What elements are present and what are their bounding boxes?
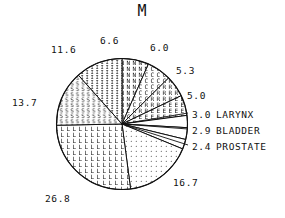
legend-value-bladder: 2.9 <box>192 125 216 136</box>
pie-slice <box>57 124 131 189</box>
legend-row-prostate: 2.4PROSTATE <box>192 141 267 152</box>
pie-chart-figure: M N C R E L <box>0 0 285 218</box>
legend-name-larynx: LARYNX <box>216 109 254 120</box>
slice-value-label-16-7: 16.7 <box>173 178 198 188</box>
legend-value-prostate: 2.4 <box>192 141 216 152</box>
slice-value-label-6-6: 6.6 <box>100 36 119 46</box>
legend-name-prostate: PROSTATE <box>216 141 267 152</box>
slice-value-label-6-0: 6.0 <box>150 43 169 53</box>
slice-value-label-13-7: 13.7 <box>12 98 37 108</box>
legend-row-larynx: 3.0LARYNX <box>192 109 254 120</box>
slice-value-label-5-0: 5.0 <box>187 91 206 101</box>
legend-name-bladder: BLADDER <box>216 125 260 136</box>
legend-value-larynx: 3.0 <box>192 109 216 120</box>
slice-value-label-11-6: 11.6 <box>51 45 76 55</box>
slice-value-label-26-8: 26.8 <box>45 194 70 204</box>
legend-row-bladder: 2.9BLADDER <box>192 125 260 136</box>
slice-value-label-5-3: 5.3 <box>176 66 195 76</box>
